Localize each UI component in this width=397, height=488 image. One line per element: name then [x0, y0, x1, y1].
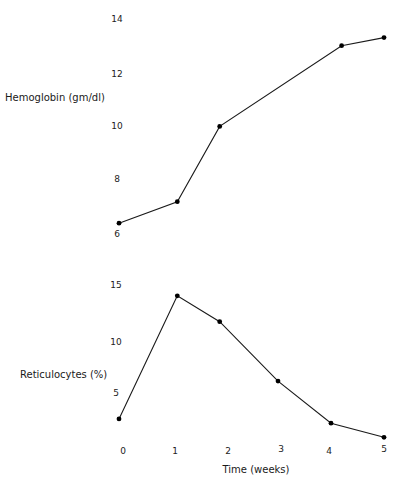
data-point — [382, 35, 387, 40]
x-tick: 5 — [381, 444, 387, 454]
reticulocytes-chart: Reticulocytes (%) 15 10 5 0 1 2 3 4 5 Ti… — [20, 280, 387, 475]
y-tick: 14 — [111, 14, 123, 24]
data-point — [217, 124, 222, 129]
hemoglobin-reticulocyte-figure: Hemoglobin (gm/dl) 14 12 10 8 6 Reticulo… — [0, 0, 397, 488]
hemoglobin-chart: Hemoglobin (gm/dl) 14 12 10 8 6 — [5, 14, 386, 239]
hemoglobin-data-points — [117, 35, 387, 225]
x-tick: 2 — [225, 446, 231, 456]
y-tick: 15 — [110, 280, 121, 290]
data-point — [329, 421, 334, 426]
y-tick: 8 — [114, 174, 120, 184]
time-x-ticks: 0 1 2 3 4 5 — [120, 444, 387, 456]
hemoglobin-axis-label: Hemoglobin (gm/dl) — [5, 92, 105, 103]
data-point — [276, 379, 281, 384]
y-tick: 12 — [111, 69, 122, 79]
reticulocytes-axis-label: Reticulocytes (%) — [20, 369, 107, 380]
reticulocytes-data-points — [117, 293, 387, 439]
data-point — [117, 221, 122, 226]
x-tick: 3 — [278, 444, 284, 454]
reticulocytes-series-line — [119, 296, 384, 438]
hemoglobin-series-line — [119, 38, 384, 224]
y-tick: 10 — [110, 337, 122, 347]
data-point — [175, 293, 180, 298]
data-point — [217, 319, 222, 324]
x-tick: 4 — [326, 446, 332, 456]
hemoglobin-y-ticks: 14 12 10 8 6 — [111, 14, 123, 239]
y-tick: 5 — [113, 388, 119, 398]
x-tick: 1 — [172, 446, 178, 456]
reticulocytes-y-ticks: 15 10 5 — [110, 280, 122, 398]
y-tick: 6 — [114, 229, 120, 239]
data-point — [117, 417, 122, 422]
y-tick: 10 — [111, 121, 123, 131]
data-point — [382, 435, 387, 440]
x-tick: 0 — [120, 446, 126, 456]
data-point — [339, 43, 344, 48]
data-point — [175, 199, 180, 204]
time-axis-label: Time (weeks) — [222, 464, 290, 475]
